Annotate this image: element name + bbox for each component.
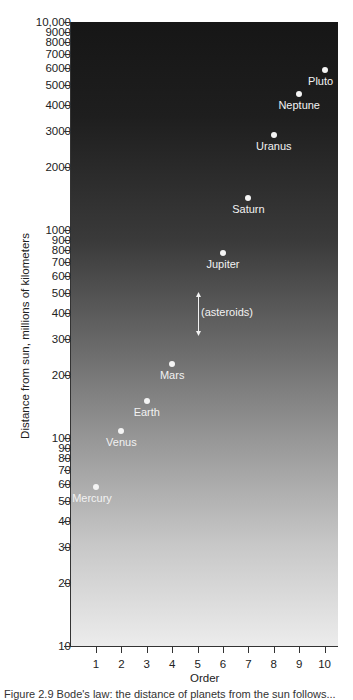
y-tick-mark bbox=[64, 293, 71, 294]
y-tick-mark bbox=[64, 250, 71, 251]
y-tick-mark bbox=[64, 375, 71, 376]
y-tick-mark bbox=[64, 313, 71, 314]
y-tick-mark bbox=[64, 448, 71, 449]
y-tick-mark bbox=[64, 262, 71, 263]
x-tick-mark bbox=[96, 647, 97, 653]
y-tick-mark bbox=[64, 458, 71, 459]
data-point-mars bbox=[169, 361, 175, 367]
x-tick-mark bbox=[121, 647, 122, 653]
x-tick-label: 10 bbox=[315, 658, 335, 670]
y-axis-label: Distance from sun, millions of kilometer… bbox=[19, 221, 31, 451]
y-tick-mark bbox=[64, 85, 71, 86]
y-tick-mark bbox=[64, 646, 71, 647]
point-label-earth: Earth bbox=[134, 406, 160, 418]
x-tick-mark bbox=[198, 647, 199, 653]
y-tick-mark bbox=[64, 547, 71, 548]
asteroids-annotation: (asteroids) bbox=[201, 306, 253, 318]
y-tick-mark bbox=[64, 167, 71, 168]
y-tick-mark bbox=[64, 470, 71, 471]
x-axis-label: Order bbox=[190, 672, 219, 684]
x-tick-label: 2 bbox=[111, 658, 131, 670]
y-tick-mark bbox=[64, 583, 71, 584]
y-tick-mark bbox=[64, 105, 71, 106]
y-tick-mark bbox=[64, 501, 71, 502]
y-tick-mark bbox=[64, 68, 71, 69]
x-tick-label: 8 bbox=[264, 658, 284, 670]
y-tick-mark bbox=[64, 131, 71, 132]
x-tick-mark bbox=[223, 647, 224, 653]
x-tick-label: 7 bbox=[238, 658, 258, 670]
figure-caption: Figure 2.9 Bode's law: the distance of p… bbox=[4, 688, 336, 700]
y-tick-mark bbox=[64, 438, 71, 439]
y-tick-mark bbox=[64, 230, 71, 231]
point-label-jupiter: Jupiter bbox=[206, 258, 239, 270]
point-label-mars: Mars bbox=[160, 369, 184, 381]
x-tick-label: 5 bbox=[188, 658, 208, 670]
point-label-uranus: Uranus bbox=[256, 140, 291, 152]
data-point-jupiter bbox=[220, 250, 226, 256]
y-tick-mark bbox=[64, 521, 71, 522]
x-axis bbox=[70, 646, 338, 647]
y-tick-mark bbox=[64, 54, 71, 55]
x-tick-mark bbox=[248, 647, 249, 653]
point-label-pluto: Pluto bbox=[308, 75, 333, 87]
x-tick-mark bbox=[325, 647, 326, 653]
plot-area bbox=[71, 22, 338, 646]
x-tick-label: 9 bbox=[289, 658, 309, 670]
y-tick-mark bbox=[64, 276, 71, 277]
y-tick-mark bbox=[64, 32, 71, 33]
x-tick-label: 3 bbox=[137, 658, 157, 670]
y-tick-mark bbox=[64, 339, 71, 340]
x-tick-mark bbox=[274, 647, 275, 653]
point-label-neptune: Neptune bbox=[278, 99, 320, 111]
point-label-venus: Venus bbox=[106, 436, 137, 448]
x-tick-label: 1 bbox=[86, 658, 106, 670]
data-point-uranus bbox=[271, 132, 277, 138]
x-tick-mark bbox=[172, 647, 173, 653]
point-label-saturn: Saturn bbox=[232, 203, 264, 215]
y-tick-mark bbox=[64, 240, 71, 241]
x-tick-label: 4 bbox=[162, 658, 182, 670]
data-point-pluto bbox=[322, 67, 328, 73]
x-tick-mark bbox=[299, 647, 300, 653]
y-tick-mark bbox=[64, 22, 71, 23]
x-tick-label: 6 bbox=[213, 658, 233, 670]
y-tick-mark bbox=[64, 42, 71, 43]
point-label-mercury: Mercury bbox=[72, 492, 112, 504]
x-tick-mark bbox=[147, 647, 148, 653]
y-tick-mark bbox=[64, 484, 71, 485]
